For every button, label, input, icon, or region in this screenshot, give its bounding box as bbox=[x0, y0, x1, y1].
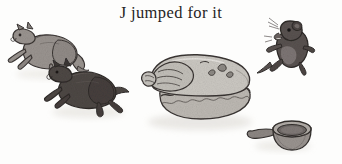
pie bbox=[142, 55, 251, 119]
leaping-mouse bbox=[257, 18, 315, 75]
illustration-page: J jumped for it bbox=[0, 0, 342, 164]
leaping-cat-lower bbox=[45, 58, 129, 117]
leaping-cat-upper bbox=[8, 22, 89, 78]
alphabet-illustration bbox=[0, 0, 342, 164]
